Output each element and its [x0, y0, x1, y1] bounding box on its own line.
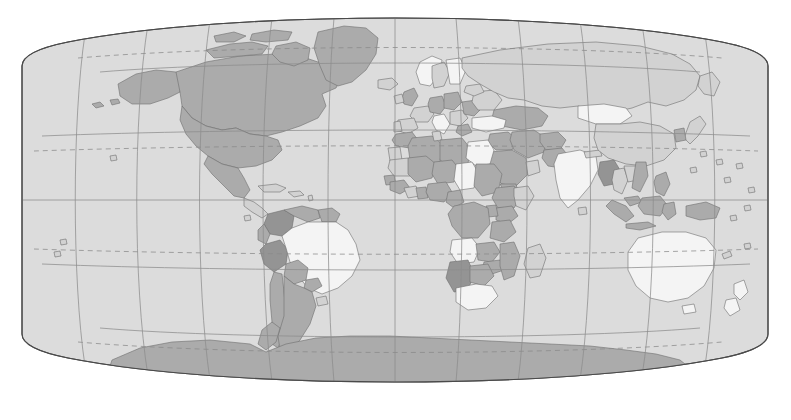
region-fiji	[744, 243, 751, 249]
region-hawaii	[110, 155, 117, 161]
region-tasmania	[682, 304, 696, 314]
region-galapagos	[244, 215, 251, 221]
region-tunisia	[432, 131, 442, 141]
region-uruguay	[316, 296, 328, 306]
world-map-svg	[0, 0, 791, 420]
region-korea	[674, 128, 686, 142]
region-sri-lanka	[578, 207, 587, 215]
world-map-figure	[0, 0, 791, 420]
region-ireland	[394, 94, 404, 104]
